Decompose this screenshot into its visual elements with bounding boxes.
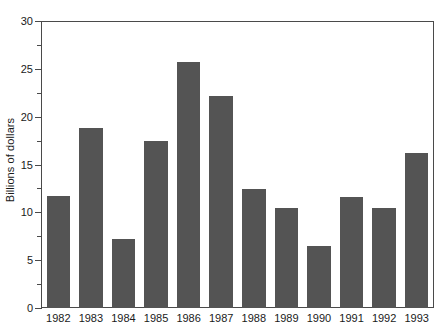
bar-chart-figure: Billions of dollars 051015202530 1982198… bbox=[0, 0, 443, 331]
bar bbox=[209, 96, 232, 308]
bar bbox=[405, 153, 428, 308]
x-tick-label: 1989 bbox=[270, 312, 303, 324]
y-tick-label: 30 bbox=[3, 15, 33, 27]
x-tick-label: 1986 bbox=[172, 312, 205, 324]
bar bbox=[47, 196, 70, 308]
x-tick-label: 1985 bbox=[140, 312, 173, 324]
bar bbox=[177, 62, 200, 308]
x-axis-tick-labels: 1982198319841985198619871988198919901991… bbox=[42, 312, 433, 330]
y-tick-label: 20 bbox=[3, 111, 33, 123]
bar bbox=[372, 208, 395, 308]
bar bbox=[144, 141, 167, 308]
y-tick-label: 5 bbox=[3, 254, 33, 266]
bar bbox=[112, 239, 135, 308]
x-tick-label: 1983 bbox=[75, 312, 108, 324]
bar bbox=[79, 128, 102, 308]
bar bbox=[275, 208, 298, 308]
x-tick-label: 1993 bbox=[400, 312, 433, 324]
x-tick-label: 1988 bbox=[238, 312, 271, 324]
bar bbox=[242, 189, 265, 308]
y-tick-major bbox=[35, 308, 42, 309]
y-axis-tick-labels: 051015202530 bbox=[0, 0, 33, 331]
y-tick-label: 0 bbox=[3, 302, 33, 314]
x-tick-label: 1987 bbox=[205, 312, 238, 324]
y-tick-label: 15 bbox=[3, 159, 33, 171]
y-tick-label: 10 bbox=[3, 206, 33, 218]
x-tick-label: 1982 bbox=[42, 312, 75, 324]
bars-layer bbox=[42, 22, 433, 308]
x-tick-label: 1984 bbox=[107, 312, 140, 324]
bar bbox=[340, 197, 363, 308]
bar bbox=[307, 246, 330, 308]
y-tick-label: 25 bbox=[3, 63, 33, 75]
x-tick-label: 1990 bbox=[303, 312, 336, 324]
x-tick-label: 1991 bbox=[335, 312, 368, 324]
x-tick-label: 1992 bbox=[368, 312, 401, 324]
